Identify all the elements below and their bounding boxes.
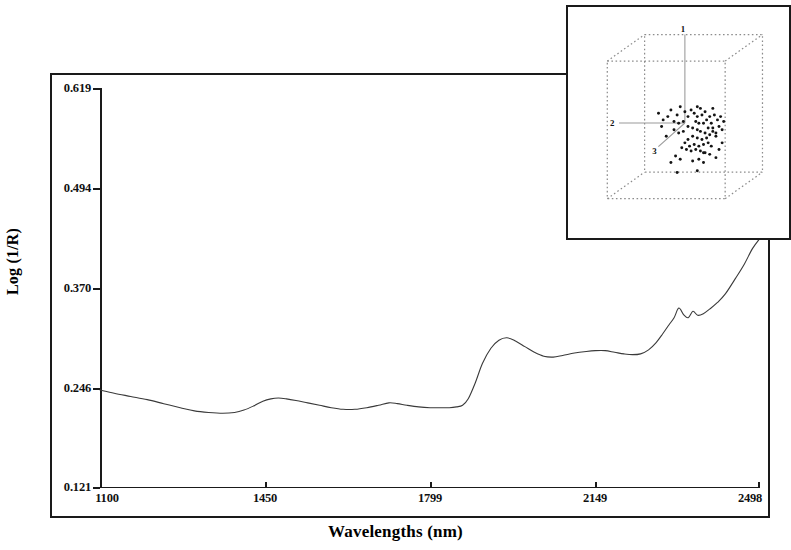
scatter-point — [665, 135, 668, 138]
scatter-point — [705, 136, 708, 139]
scatter-point — [683, 110, 686, 113]
scatter-point — [707, 127, 710, 130]
scatter-point — [669, 109, 672, 112]
scatter-point — [718, 125, 721, 128]
scatter-point — [708, 153, 711, 156]
y-axis-title: Log (1/R) — [4, 228, 22, 295]
x-tick-label-2: 1799 — [418, 491, 442, 506]
y-tick-label-3: 0.246 — [64, 381, 91, 396]
scatter-point — [673, 128, 676, 131]
scatter-point — [694, 148, 697, 151]
y-tick-label-0: 0.619 — [64, 81, 91, 96]
scatter-point — [696, 136, 699, 139]
scatter-point — [708, 133, 711, 136]
scatter-point — [721, 141, 724, 144]
scatter-point — [687, 115, 690, 118]
inset-3d-scatter-panel: 1 2 3 — [566, 5, 791, 240]
scatter-point — [680, 146, 683, 149]
scatter-point — [691, 135, 694, 138]
spectrum-curve — [100, 238, 760, 413]
y-tick-mark — [93, 188, 100, 190]
scatter-point — [677, 122, 680, 125]
scatter-point — [669, 161, 672, 164]
inset-axis-label-1: 1 — [681, 24, 685, 34]
scatter-point — [711, 127, 714, 130]
y-tick-mark — [93, 388, 100, 390]
scatter-point — [716, 118, 719, 121]
scatter-point — [662, 118, 665, 121]
scatter-point — [687, 125, 690, 128]
scatter-point — [688, 145, 691, 148]
scatter-point — [714, 135, 717, 138]
scatter-point — [691, 159, 694, 162]
scatter-point — [660, 125, 663, 128]
scatter-point — [683, 141, 686, 144]
scatter-point — [679, 105, 682, 108]
scatter-point — [677, 132, 680, 135]
scatter-point — [700, 113, 703, 116]
scatter-point — [697, 122, 700, 125]
y-tick-mark — [93, 88, 100, 90]
scatter-point — [693, 143, 696, 146]
scatter-points — [657, 105, 725, 174]
scatter-point — [682, 130, 685, 133]
scatter-point — [696, 115, 699, 118]
scatter-point — [718, 148, 721, 151]
scatter-point — [702, 161, 705, 164]
y-tick-label-2: 0.370 — [64, 281, 91, 296]
x-tick-label-0: 1100 — [95, 491, 119, 506]
scatter-point — [702, 122, 705, 125]
scatter-point — [676, 113, 679, 116]
scatter-point — [673, 120, 676, 123]
scatter-point — [711, 107, 714, 110]
scatter-point — [710, 122, 713, 125]
scatter-point — [697, 145, 700, 148]
y-tick-mark — [93, 487, 100, 489]
scatter-point — [722, 120, 725, 123]
scatter-point — [666, 115, 669, 118]
y-tick-label-4: 0.121 — [64, 480, 91, 495]
scatter-point — [704, 132, 707, 135]
scatter-point — [702, 143, 705, 146]
inset-axis-label-3: 3 — [652, 146, 657, 156]
scatter-point — [711, 130, 714, 133]
scatter-point — [696, 169, 699, 172]
scatter-point — [699, 150, 702, 153]
scatter-point — [700, 138, 703, 141]
y-tick-label-1: 0.494 — [64, 181, 91, 196]
x-axis-title: Wavelengths (nm) — [0, 522, 791, 542]
scatter-point — [707, 141, 710, 144]
x-tick-label-1: 1450 — [253, 491, 277, 506]
scatter-point — [719, 115, 722, 118]
scatter-point — [713, 113, 716, 116]
y-tick-mark — [93, 288, 100, 290]
scatter-point — [694, 120, 697, 123]
scatter-point — [721, 128, 724, 131]
scatter-point — [699, 107, 702, 110]
x-tick-label-4: 2498 — [738, 491, 762, 506]
x-tick-label-3: 2149 — [583, 491, 607, 506]
scatter-point — [690, 109, 693, 112]
scatter-point — [676, 171, 679, 174]
scatter-point — [699, 130, 702, 133]
scatter-point — [693, 112, 696, 115]
scatter-point — [696, 105, 699, 108]
scatter-point — [705, 118, 708, 121]
scatter-point — [679, 158, 682, 161]
scatter-point — [682, 120, 685, 123]
scatter-point — [714, 132, 717, 135]
scatter-point — [674, 155, 677, 158]
inset-axis-label-2: 2 — [610, 118, 615, 128]
scatter-point — [691, 127, 694, 130]
scatter-point — [704, 110, 707, 113]
inset-3d-scatter-plot: 1 2 3 — [568, 7, 789, 238]
scatter-point — [708, 115, 711, 118]
scatter-point — [704, 151, 707, 154]
scatter-point — [657, 112, 660, 115]
scatter-point — [710, 145, 713, 148]
figure-canvas: Log (1/R) 0.619 0.494 0.370 0.246 0.121 … — [0, 0, 791, 550]
scatter-point — [696, 128, 699, 131]
scatter-point — [690, 150, 693, 153]
scatter-point — [697, 158, 700, 161]
scatter-point — [714, 156, 717, 159]
